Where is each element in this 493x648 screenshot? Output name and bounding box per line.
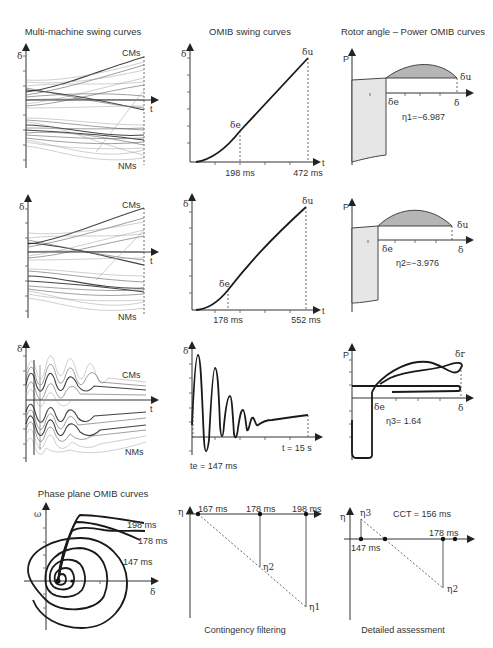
- r1-omib-t1: 198 ms: [225, 168, 255, 178]
- phase-label-147: 147 ms: [123, 557, 153, 567]
- phase-label-178: 178 ms: [138, 536, 168, 546]
- detail-caption: Detailed assessment: [361, 625, 445, 635]
- r3-pa-delta-e: δe: [374, 402, 385, 412]
- filter-eta-axis: η: [178, 507, 183, 517]
- r1-nms-label: NMs: [118, 161, 137, 171]
- r3-pa-p-axis: P: [343, 350, 349, 360]
- filter-t167: 167 ms: [198, 504, 228, 514]
- r3-pa-delta-axis: δ: [458, 403, 463, 413]
- detail-t147: 147 ms: [351, 543, 381, 553]
- r1-pa-delta-e: δe: [388, 97, 399, 107]
- r1-omib-t2: 472 ms: [293, 168, 323, 178]
- r1-omib-delta-u: δu: [302, 47, 313, 57]
- r2-pa-eta2: η2=−3.976: [396, 258, 439, 268]
- r1-mm-t-label: t: [150, 104, 153, 114]
- r1-pa-eta1: η1=−6.987: [402, 112, 445, 122]
- r1-pa-delta-axis: δ: [454, 98, 459, 108]
- filter-eta1: η1: [309, 602, 320, 612]
- row3-multimachine-plot: δ t CMs NMs: [17, 342, 157, 462]
- filter-t178: 178 ms: [246, 504, 276, 514]
- row1-multimachine-plot: δ t CMs NMs: [17, 45, 157, 171]
- detail-eta3: η3: [360, 508, 371, 518]
- r3-omib-delta-axis: δ: [183, 346, 188, 356]
- detail-t178: 178 ms: [429, 528, 459, 538]
- filter-t198: 198 ms: [292, 504, 322, 514]
- r3-mm-t-label: t: [150, 404, 153, 414]
- row1-power-angle-plot: P δe δu δ η1=−6.987: [343, 50, 472, 165]
- row2-multimachine-plot: δ t CMs NMs: [19, 196, 157, 322]
- r1-mm-delta-label: δ: [17, 51, 22, 61]
- phase-label-198: 198 ms: [127, 520, 157, 530]
- r1-pa-p-axis: P: [343, 54, 349, 64]
- row3-omib-plot: δ t = 15 s te = 147 ms: [183, 343, 321, 471]
- r2-pa-p-axis: P: [343, 202, 349, 212]
- row1-omib-plot: δe δu δ t 198 ms 472 ms: [181, 45, 325, 178]
- r1-omib-t-axis: t: [322, 158, 325, 168]
- filter-eta2: η2: [263, 562, 274, 572]
- title-rotor-power: Rotor angle – Power OMIB curves: [341, 26, 485, 37]
- row2-omib-plot: δ δe δu t 178 ms 552 ms: [183, 195, 325, 325]
- detail-eta2: η2: [447, 584, 458, 594]
- transient-stability-diagram: Multi-machine swing curves OMIB swing cu…: [0, 0, 493, 648]
- r2-omib-t2: 552 ms: [291, 315, 321, 325]
- filter-caption: Contingency filtering: [204, 625, 286, 635]
- r2-omib-delta-axis: δ: [183, 199, 188, 209]
- title-multimachine: Multi-machine swing curves: [25, 26, 142, 37]
- r2-omib-delta-e: δe: [219, 279, 230, 289]
- r2-pa-delta-e: δe: [382, 244, 393, 254]
- r1-omib-delta-e: δe: [230, 120, 241, 130]
- detail-cct: CCT = 156 ms: [393, 509, 452, 519]
- r1-pa-delta-u: δu: [460, 72, 471, 82]
- r2-omib-delta-u: δu: [302, 196, 313, 206]
- r2-nms-label: NMs: [118, 312, 137, 322]
- phase-delta-axis: δ: [150, 587, 155, 597]
- r2-omib-t-axis: t: [322, 306, 325, 316]
- r1-cms-label: CMs: [122, 48, 141, 58]
- r2-omib-t1: 178 ms: [213, 315, 243, 325]
- r1-omib-delta-axis: δ: [181, 49, 186, 59]
- r3-pa-eta3: η3= 1.64: [386, 416, 421, 426]
- row2-power-angle-plot: P δe δu δ η2=−3.976: [343, 200, 472, 312]
- r3-cms-label: CMs: [122, 370, 141, 380]
- r3-nms-label: NMs: [125, 447, 144, 457]
- detail-eta-axis: η: [340, 512, 345, 522]
- r2-mm-delta-label: δ: [19, 202, 24, 212]
- r3-omib-tend: t = 15 s: [282, 443, 312, 453]
- r2-pa-delta-u: δu: [457, 220, 468, 230]
- title-phase-plane: Phase plane OMIB curves: [38, 488, 149, 499]
- detailed-assessment-plot: η η3 CCT = 156 ms 147 ms 178 ms η2 Detai…: [340, 508, 473, 635]
- r3-pa-delta-r: δr: [455, 349, 465, 359]
- phase-omega-axis: ω: [34, 509, 41, 519]
- r2-mm-t-label: t: [150, 256, 153, 266]
- title-omib-swing: OMIB swing curves: [209, 26, 291, 37]
- contingency-filtering-plot: η 167 ms 178 ms 198 ms η2 η1 Contingency…: [178, 504, 322, 635]
- row3-power-angle-plot: P δe δr δ η3= 1.64: [343, 345, 472, 460]
- r3-omib-te: te = 147 ms: [190, 461, 238, 471]
- phase-plane-plot: Phase plane OMIB curves ω δ 198 ms 178 m…: [24, 488, 168, 630]
- r2-cms-label: CMs: [122, 200, 141, 210]
- r2-pa-delta-axis: δ: [458, 245, 463, 255]
- r3-mm-delta-label: δ: [17, 344, 22, 354]
